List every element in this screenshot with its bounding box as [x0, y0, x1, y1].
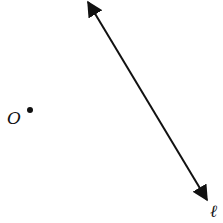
line-l-label: ℓ — [210, 201, 217, 221]
point-o-label: O — [7, 108, 21, 128]
point-o — [27, 107, 33, 113]
line-l — [88, 2, 207, 200]
diagram-canvas: O ℓ — [0, 0, 223, 223]
